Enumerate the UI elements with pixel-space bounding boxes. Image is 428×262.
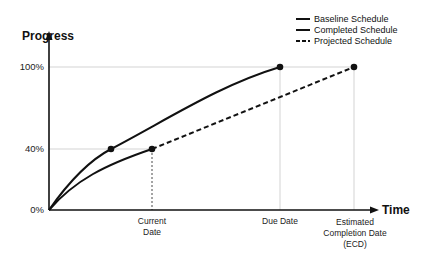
- ytick-40: 40%: [25, 143, 45, 154]
- completed-schedule-line: [49, 149, 152, 210]
- legend-completed-label: Completed Schedule: [314, 25, 398, 35]
- xtick-due-date: Due Date: [262, 216, 298, 226]
- legend-baseline-label: Baseline Schedule: [314, 14, 389, 24]
- xtick-ecd-line1: Estimated: [336, 217, 374, 227]
- baseline-schedule-line: [49, 67, 280, 210]
- schedule-chart: Progress Time 100% 40% 0% Current Date D…: [0, 0, 428, 262]
- projected-ecd-marker: [351, 64, 358, 71]
- xtick-ecd-line2: Completion Date: [323, 228, 387, 238]
- xtick-current-line1: Current: [138, 216, 167, 226]
- gridlines: [49, 67, 354, 210]
- xtick-current-line2: Date: [143, 227, 161, 237]
- completed-current-marker: [149, 146, 156, 153]
- ytick-100: 100%: [20, 61, 45, 72]
- x-axis-arrow-icon: [370, 207, 379, 214]
- xtick-ecd-line3: (ECD): [343, 239, 367, 249]
- baseline-due-marker: [277, 64, 284, 71]
- legend: Baseline Schedule Completed Schedule Pro…: [296, 14, 398, 46]
- y-axis-title: Progress: [22, 29, 74, 43]
- legend-projected-label: Projected Schedule: [314, 36, 392, 46]
- baseline-40-marker: [108, 146, 115, 153]
- ytick-0: 0%: [30, 204, 44, 215]
- projected-schedule-line: [152, 67, 354, 149]
- x-axis-title: Time: [382, 203, 410, 217]
